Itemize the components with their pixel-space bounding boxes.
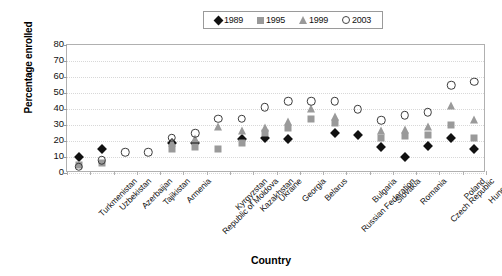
data-point-2003-hungary (470, 78, 479, 87)
data-point-1999-ukraine (261, 124, 269, 132)
triangle-marker-icon (299, 16, 307, 24)
x-tick-label: Czech Republic (448, 176, 496, 224)
data-point-1999-georgia (284, 117, 292, 125)
data-point-1989-bulgaria (353, 130, 363, 140)
data-point-1995-armenia (168, 146, 175, 153)
y-tick-label: 50 (40, 87, 64, 97)
x-tick-label: Russian Federation (359, 176, 417, 234)
gridline (67, 125, 484, 126)
data-point-1995-russian-federation (331, 120, 338, 127)
data-point-2003-georgia (284, 97, 293, 106)
data-point-1989-uzbekistan (97, 144, 107, 154)
data-point-1989-romania (400, 152, 410, 162)
y-tick-label: 40 (40, 103, 64, 113)
x-tick-label: Armenia (184, 176, 213, 205)
data-point-1995-kyrgyzstan (215, 146, 222, 153)
x-tick-label: Bulgaria (370, 176, 399, 205)
data-point-2003-turkmenistan (74, 162, 83, 171)
data-point-1995-czech-republic (424, 131, 431, 138)
x-tick-mark (486, 171, 487, 175)
data-point-1995-poland (448, 122, 455, 129)
data-point-1999-kyrgyzstan (214, 122, 222, 130)
data-point-1999-hungary (470, 116, 478, 124)
data-point-2003-kazakhstan (237, 114, 246, 123)
x-tick-label: Belarus (323, 176, 350, 203)
x-tick-mark (323, 171, 324, 175)
data-point-2003-tajikistan (144, 148, 153, 157)
data-point-1995-republic-of-moldova (192, 144, 199, 151)
y-tick-mark (64, 93, 67, 94)
x-tick-label: Poland (462, 176, 487, 201)
data-point-1999-belarus (307, 105, 315, 113)
gridline (67, 173, 484, 174)
data-point-1989-hungary (469, 144, 479, 154)
data-point-2003-romania (400, 111, 409, 120)
x-tick-mark (230, 171, 231, 175)
x-tick-mark (90, 171, 91, 175)
data-point-2003-republic-of-moldova (191, 129, 200, 138)
y-tick-mark (64, 109, 67, 110)
chart-legend: 1989 1995 1999 2003 (203, 11, 383, 29)
legend-item-1999: 1999 (299, 15, 328, 25)
data-point-2003-poland (447, 81, 456, 90)
x-tick-mark (393, 171, 394, 175)
x-tick-mark (439, 171, 440, 175)
x-tick-mark (463, 171, 464, 175)
legend-label: 1999 (309, 15, 328, 25)
diamond-marker-icon (213, 15, 223, 25)
legend-item-2003: 2003 (342, 15, 371, 25)
x-axis-title: Country (0, 254, 502, 266)
data-point-1995-georgia (285, 125, 292, 132)
y-tick-label: 60 (40, 71, 64, 81)
data-point-1995-hungary (471, 134, 478, 141)
y-tick-label: 30 (40, 119, 64, 129)
data-point-2003-azerbaijan (121, 148, 130, 157)
legend-label: 1989 (224, 15, 243, 25)
x-tick-label: Kyrgyzstan (233, 176, 269, 212)
y-tick-mark (64, 157, 67, 158)
circle-marker-icon (342, 16, 350, 24)
x-tick-mark (137, 171, 138, 175)
data-point-1999-kazakhstan (238, 127, 246, 135)
x-tick-mark (114, 171, 115, 175)
x-tick-label: Slovakia (393, 176, 422, 205)
data-point-2003-slovakia (377, 116, 386, 125)
legend-item-1995: 1995 (257, 15, 285, 25)
data-point-2003-uzbekistan (98, 156, 107, 165)
x-tick-label: Uzbekistan (117, 176, 153, 212)
data-point-2003-belarus (307, 97, 316, 106)
data-point-1995-slovakia (378, 134, 385, 141)
data-point-2003-ukraine (261, 103, 270, 112)
x-tick-mark (253, 171, 254, 175)
y-tick-mark (64, 61, 67, 62)
data-point-2003-russian-federation (330, 97, 339, 106)
x-tick-label: Tajikistan (161, 176, 192, 207)
x-tick-label: Republic of Moldova (220, 176, 280, 236)
data-point-1999-slovakia (377, 127, 385, 135)
y-tick-mark (64, 45, 67, 46)
data-point-1999-czech-republic (424, 122, 432, 130)
gridline (67, 93, 484, 94)
x-tick-mark (183, 171, 184, 175)
data-point-2003-kyrgyzstan (214, 114, 223, 123)
data-point-1989-czech-republic (423, 141, 433, 151)
x-tick-mark (370, 171, 371, 175)
legend-item-1989: 1989 (215, 15, 243, 25)
data-point-1999-russian-federation (331, 113, 339, 121)
data-point-1989-georgia (283, 134, 293, 144)
x-tick-mark (300, 171, 301, 175)
data-point-1995-romania (401, 133, 408, 140)
data-point-2003-armenia (168, 134, 177, 143)
y-tick-label: 20 (40, 135, 64, 145)
x-axis-title-text: Country (251, 254, 291, 266)
data-point-1989-turkmenistan (74, 152, 84, 162)
y-tick-mark (64, 141, 67, 142)
gridline (67, 141, 484, 142)
x-tick-mark (207, 171, 208, 175)
y-tick-label: 70 (40, 55, 64, 65)
x-tick-label: Azerbaijan (140, 176, 175, 211)
x-tick-mark (416, 171, 417, 175)
x-tick-label: Romania (417, 176, 448, 207)
plot-area (66, 44, 485, 172)
gridline (67, 61, 484, 62)
